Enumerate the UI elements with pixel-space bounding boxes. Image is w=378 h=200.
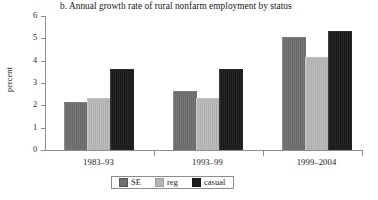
- bar-casual-1983–93: [110, 69, 134, 150]
- legend-label-reg: reg: [167, 178, 178, 187]
- bar-chart-figure: b. Annual growth rate of rural nonfarm e…: [0, 0, 378, 200]
- y-tick-2: [41, 105, 45, 106]
- legend-swatch-reg: [155, 178, 164, 187]
- bar-se-1983–93: [64, 102, 88, 150]
- bar-se-1993–99: [173, 91, 197, 150]
- bar-reg-1993–99: [196, 98, 220, 150]
- legend-label-casual: casual: [204, 178, 226, 187]
- y-tick-label-2: 2: [23, 100, 37, 109]
- x-tick-label-1993–99: 1993–99: [158, 157, 258, 167]
- y-tick-4: [41, 61, 45, 62]
- legend-label-se: SE: [131, 178, 141, 187]
- y-tick-label-1: 1: [23, 123, 37, 132]
- x-tick-label-1999–2004: 1999–2004: [267, 157, 367, 167]
- legend-item-casual: casual: [192, 178, 226, 187]
- y-tick-label-6: 6: [23, 11, 37, 20]
- bar-casual-1999–2004: [328, 31, 352, 150]
- x-boundary-tick-0: [154, 151, 155, 156]
- x-boundary-tick-1: [263, 151, 264, 156]
- y-tick-6: [41, 16, 45, 17]
- legend-item-se: SE: [119, 178, 141, 187]
- chart-legend: SEregcasual: [111, 176, 234, 189]
- bar-casual-1993–99: [219, 69, 243, 150]
- bar-se-1999–2004: [282, 37, 306, 150]
- y-tick-1: [41, 128, 45, 129]
- x-tick-label-1983–93: 1983–93: [49, 157, 149, 167]
- legend-swatch-casual: [192, 178, 201, 187]
- x-axis-line: [45, 150, 363, 151]
- bar-reg-1983–93: [87, 98, 111, 150]
- chart-title: b. Annual growth rate of rural nonfarm e…: [60, 1, 372, 12]
- bar-reg-1999–2004: [305, 57, 329, 150]
- y-tick-3: [41, 83, 45, 84]
- y-tick-label-5: 5: [23, 33, 37, 42]
- y-axis-line: [45, 16, 46, 151]
- y-tick-label-0: 0: [23, 145, 37, 154]
- legend-item-reg: reg: [155, 178, 178, 187]
- y-tick-0: [41, 150, 45, 151]
- legend-swatch-se: [119, 178, 128, 187]
- x-boundary-tick-2: [362, 151, 363, 156]
- y-tick-label-4: 4: [23, 56, 37, 65]
- y-tick-5: [41, 38, 45, 39]
- y-tick-label-3: 3: [23, 78, 37, 87]
- plot-area: 0123456 1983–931993–991999–2004: [45, 16, 363, 151]
- y-axis-label: percent: [5, 55, 14, 105]
